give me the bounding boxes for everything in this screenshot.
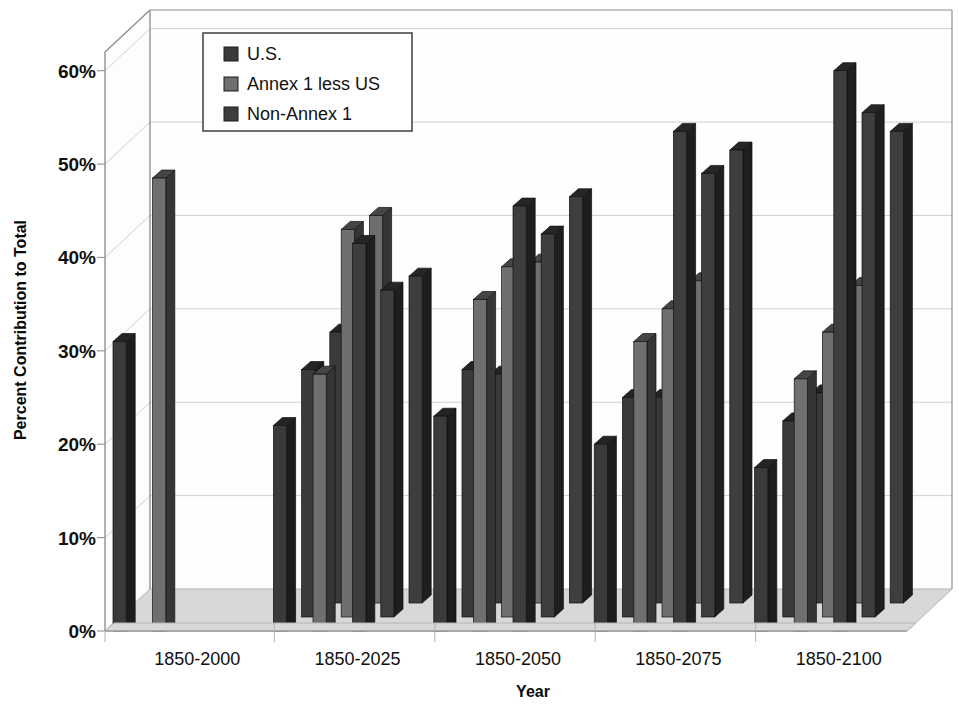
chart-floor-front — [105, 623, 916, 631]
bar-1850-2025-s3-r2 — [381, 282, 403, 617]
x-tick-label-1850-2075: 1850-2075 — [635, 649, 721, 669]
y-tick-label-0%: 0% — [69, 621, 97, 642]
legend-swatch-us — [224, 47, 238, 61]
bar-1850-2100-s2-r1 — [794, 371, 816, 631]
x-axis-title: Year — [516, 683, 550, 700]
bar-1850-2075-s3-r1 — [673, 123, 695, 631]
legend-label-annex1-less-us: Annex 1 less US — [247, 74, 380, 94]
y-tick-label-50%: 50% — [58, 154, 96, 175]
legend-label-us: U.S. — [247, 44, 282, 64]
y-tick-label-30%: 30% — [58, 341, 96, 362]
y-tick-label-10%: 10% — [58, 528, 96, 549]
legend-label-non-annex1: Non-Annex 1 — [247, 104, 352, 124]
y-tick-label-60%: 60% — [58, 61, 96, 82]
bar-1850-2025-s2-r1 — [313, 366, 335, 631]
y-tick-label-40%: 40% — [58, 247, 96, 268]
bar-1850-2100-s3-r2 — [862, 105, 884, 617]
chart-legend: U.S. Annex 1 less US Non-Annex 1 — [203, 33, 412, 131]
bar-1850-2000-s1-r1 — [113, 334, 135, 632]
bar-1850-2050-s3-r1 — [513, 198, 535, 631]
bar-1850-2000-s2-r1 — [153, 170, 175, 631]
bar-1850-2075-s2-r1 — [634, 334, 656, 632]
bar-1850-2025-s1-r1 — [273, 418, 295, 631]
bar-1850-2100-s3-r1 — [834, 63, 856, 631]
y-tick-label-20%: 20% — [58, 434, 96, 455]
bar-1850-2050-s3-r2 — [541, 226, 563, 617]
bar-1850-2050-s1-r1 — [434, 408, 456, 631]
chart-container: 0%10%20%30%40%50%60% 1850-20001850-20251… — [0, 0, 959, 707]
x-tick-label-1850-2100: 1850-2100 — [796, 649, 882, 669]
bar-1850-2075-s3-r2 — [702, 165, 724, 617]
bar-1850-2025-s3-r1 — [353, 235, 375, 631]
bar-1850-2100-s3-r3 — [890, 123, 912, 603]
legend-swatch-annex1-less-us — [224, 77, 238, 91]
x-tick-label-1850-2000: 1850-2000 — [154, 649, 240, 669]
bar-1850-2025-s3-r3 — [409, 268, 431, 603]
y-axis-ticks: 0%10%20%30%40%50%60% — [58, 61, 105, 642]
legend-swatch-non-annex1 — [224, 107, 238, 121]
bar-1850-2100-s1-r1 — [755, 460, 777, 631]
bar-1850-2050-s2-r1 — [473, 291, 495, 631]
x-tick-label-1850-2050: 1850-2050 — [475, 649, 561, 669]
bar-1850-2075-s3-r3 — [730, 142, 752, 603]
y-axis-title: Percent Contribution to Total — [12, 220, 29, 440]
bar-1850-2075-s1-r1 — [594, 436, 616, 631]
bar-chart-3d: 0%10%20%30%40%50%60% 1850-20001850-20251… — [0, 0, 959, 707]
x-tick-label-1850-2025: 1850-2025 — [315, 649, 401, 669]
bar-1850-2050-s3-r3 — [569, 189, 591, 603]
